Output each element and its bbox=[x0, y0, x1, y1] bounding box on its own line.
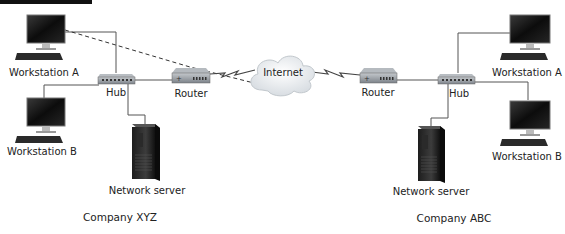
workstation-a-abc-label: Workstation A bbox=[492, 67, 562, 78]
network-server-xyz-icon bbox=[132, 124, 160, 181]
router-xyz-label: Router bbox=[174, 88, 207, 99]
router-abc-icon: + bbox=[360, 68, 397, 83]
network-diagram: + + bbox=[0, 0, 565, 234]
hub-xyz-label: Hub bbox=[106, 87, 126, 98]
router-abc-label: Router bbox=[361, 87, 394, 98]
hub-abc-label: Hub bbox=[449, 88, 469, 99]
workstation-b-abc-icon bbox=[500, 101, 550, 146]
workstation-a-abc-icon bbox=[500, 15, 550, 60]
workstation-a-xyz-icon bbox=[15, 15, 65, 60]
workstation-a-xyz-label: Workstation A bbox=[9, 67, 79, 78]
workstation-b-abc-label: Workstation B bbox=[492, 151, 562, 162]
svg-text:+: + bbox=[364, 75, 370, 83]
workstation-b-xyz-label: Workstation B bbox=[7, 146, 77, 157]
router-xyz-icon: + bbox=[172, 68, 210, 83]
hub-abc-icon bbox=[438, 74, 475, 84]
wan-link-left bbox=[210, 70, 255, 77]
internet-label: Internet bbox=[263, 67, 303, 78]
svg-text:+: + bbox=[176, 75, 182, 83]
company-abc-label: Company ABC bbox=[417, 212, 492, 224]
company-xyz-label: Company XYZ bbox=[83, 211, 157, 223]
wan-link-right bbox=[312, 70, 360, 77]
hub-xyz-icon bbox=[98, 74, 135, 84]
network-server-xyz-label: Network server bbox=[109, 185, 186, 196]
workstation-b-xyz-icon bbox=[15, 98, 65, 143]
network-server-abc-label: Network server bbox=[393, 186, 470, 197]
network-server-abc-icon bbox=[418, 126, 445, 183]
